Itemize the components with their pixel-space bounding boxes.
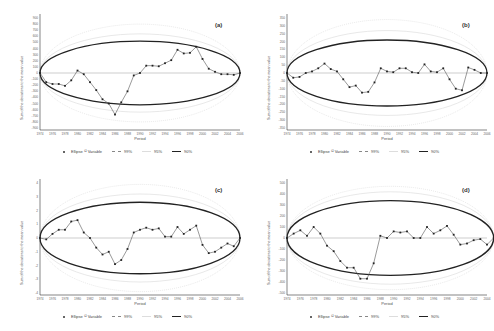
- chart-legend: Ellipse ¹² Variable99%95%90%: [309, 314, 439, 319]
- svg-text:700: 700: [33, 28, 39, 32]
- svg-text:500: 500: [280, 181, 286, 185]
- data-point: [386, 237, 388, 239]
- svg-text:200: 200: [280, 214, 286, 218]
- svg-text:0: 0: [36, 71, 38, 75]
- data-point: [158, 227, 160, 229]
- data-point: [411, 71, 413, 73]
- data-point: [233, 245, 235, 247]
- svg-text:150: 150: [280, 47, 286, 51]
- data-point: [361, 92, 363, 94]
- data-point: [170, 236, 172, 238]
- legend-item-99: 99%: [112, 314, 132, 319]
- svg-text:-200: -200: [279, 258, 286, 262]
- svg-text:-4: -4: [35, 291, 38, 295]
- data-point: [133, 232, 135, 234]
- data-point: [77, 219, 79, 221]
- svg-text:300: 300: [280, 24, 286, 28]
- svg-text:900: 900: [33, 16, 39, 20]
- data-point: [324, 63, 326, 65]
- svg-text:250: 250: [280, 32, 286, 36]
- legend-swatch-icon: [112, 316, 121, 317]
- data-point: [239, 72, 241, 74]
- svg-text:-500: -500: [32, 102, 39, 106]
- data-point: [139, 72, 141, 74]
- data-point: [195, 225, 197, 227]
- svg-text:-50: -50: [280, 79, 285, 83]
- data-point: [58, 229, 60, 231]
- data-point: [486, 244, 488, 246]
- data-point: [108, 251, 110, 253]
- chart-panel-d: 5004003002001000-100-200-300-400-5001974…: [247, 165, 494, 330]
- svg-text:-150: -150: [279, 95, 286, 99]
- data-point: [189, 229, 191, 231]
- legend-item-95: 95%: [389, 149, 409, 154]
- x-axis-label: Period: [40, 301, 240, 306]
- svg-text:-500: -500: [279, 291, 286, 295]
- svg-text:300: 300: [33, 53, 39, 57]
- data-point: [189, 52, 191, 54]
- data-point: [114, 263, 116, 265]
- data-point: [442, 67, 444, 69]
- data-point: [367, 91, 369, 93]
- svg-text:100: 100: [280, 225, 286, 229]
- svg-text:-2: -2: [35, 264, 38, 268]
- svg-text:50: 50: [281, 63, 285, 67]
- data-point: [114, 114, 116, 116]
- data-point: [202, 58, 204, 60]
- legend-swatch-icon: [419, 316, 428, 317]
- data-point: [479, 238, 481, 240]
- data-point: [453, 234, 455, 236]
- data-point: [183, 53, 185, 55]
- data-point: [220, 73, 222, 75]
- svg-text:100: 100: [33, 65, 39, 69]
- svg-text:600: 600: [33, 34, 39, 38]
- data-point: [227, 243, 229, 245]
- data-point: [83, 232, 85, 234]
- data-point: [319, 233, 321, 235]
- data-point: [133, 75, 135, 77]
- data-point: [102, 98, 104, 100]
- data-point: [446, 225, 448, 227]
- svg-text:3: 3: [36, 195, 38, 199]
- data-point: [373, 262, 375, 264]
- chart-legend: Ellipse ¹² Variable99%95%90%: [309, 149, 439, 154]
- data-point: [386, 71, 388, 73]
- y-axis-label: Sum of the deviations to the mean value: [267, 221, 271, 285]
- data-point: [83, 73, 85, 75]
- svg-text:-1: -1: [35, 250, 38, 254]
- legend-swatch-icon: [389, 151, 398, 152]
- x-axis-label: Period: [40, 136, 240, 141]
- svg-text:500: 500: [33, 40, 39, 44]
- legend-swatch-icon: [359, 151, 368, 152]
- data-point: [139, 229, 141, 231]
- data-point: [286, 237, 288, 239]
- data-point: [317, 67, 319, 69]
- data-point: [380, 67, 382, 69]
- data-point: [392, 71, 394, 73]
- data-point: [455, 88, 457, 90]
- svg-text:-100: -100: [32, 77, 39, 81]
- data-point: [326, 245, 328, 247]
- svg-text:800: 800: [33, 22, 39, 26]
- data-point: [220, 247, 222, 249]
- data-point: [419, 237, 421, 239]
- data-point: [480, 72, 482, 74]
- legend-item-90: 90%: [172, 314, 192, 319]
- legend-swatch-icon: [142, 151, 151, 152]
- data-point: [152, 229, 154, 231]
- svg-text:0: 0: [283, 236, 285, 240]
- data-point: [311, 71, 313, 73]
- data-point: [70, 221, 72, 223]
- y-axis-label: Sum of the deviations to the mean value: [267, 56, 271, 120]
- legend-item-variable: Ellipse ¹² Variable: [309, 149, 349, 154]
- data-point: [52, 83, 54, 85]
- y-axis-label: Sum of the deviations to the mean value: [20, 56, 24, 120]
- data-point: [399, 232, 401, 234]
- chart-panel-c: 43210-1-2-3-4197419761978198019821984198…: [0, 165, 247, 330]
- legend-item-99: 99%: [359, 149, 379, 154]
- data-point: [39, 72, 41, 74]
- data-point: [164, 236, 166, 238]
- data-point: [95, 89, 97, 91]
- data-point: [145, 65, 147, 67]
- data-point: [214, 251, 216, 253]
